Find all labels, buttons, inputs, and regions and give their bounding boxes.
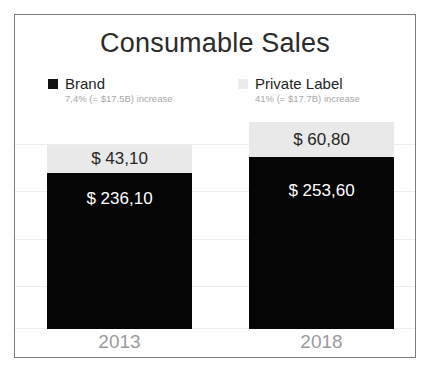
plot-area: $ 43,10 $ 236,10 $ 60,80 $ 253,60 [15,111,415,329]
bar-value-brand-2013: $ 236,10 [86,189,152,209]
x-axis-tick-2013: 2013 [47,331,192,353]
x-axis-tick-2018: 2018 [249,331,394,353]
legend-label-private-label: Private Label [255,75,343,92]
legend-swatch-brand-icon [48,79,58,89]
bar-segment-brand-2013[interactable]: $ 236,10 [47,173,192,329]
legend-subtitle-private-label: 41% (= $17.7B) increase [255,93,360,104]
chart-title: Consumable Sales [15,28,415,59]
bar-value-brand-2018: $ 253,60 [288,181,354,201]
legend-label-brand: Brand [65,75,105,92]
legend-swatch-private-label-icon [238,79,248,89]
legend-subtitle-brand: 7,4% (= $17.5B) increase [65,93,172,104]
bar-segment-private-label-2013[interactable]: $ 43,10 [47,145,192,173]
bar-segment-brand-2018[interactable]: $ 253,60 [249,157,394,329]
bar-value-private-label-2013: $ 43,10 [91,149,148,169]
bar-value-private-label-2018: $ 60,80 [293,130,350,150]
chart-frame: Consumable Sales Brand 7,4% (= $17.5B) i… [14,14,416,358]
x-axis: 2013 2018 [15,329,415,358]
legend-item-brand[interactable]: Brand 7,4% (= $17.5B) increase [48,75,172,104]
legend-item-private-label[interactable]: Private Label 41% (= $17.7B) increase [238,75,360,104]
bar-segment-private-label-2018[interactable]: $ 60,80 [249,122,394,157]
